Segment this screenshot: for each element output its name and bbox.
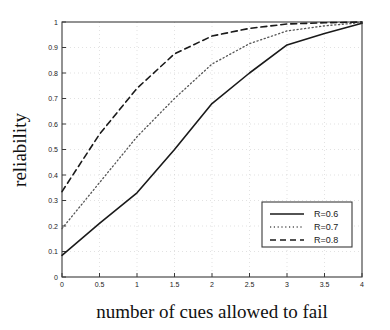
x-tick-label: 1.5 [170,281,180,288]
x-tick-label: 2.5 [245,281,255,288]
y-tick-label: 0.5 [48,146,58,153]
chart-background [0,0,390,330]
legend-label: R=0.6 [314,209,338,219]
x-axis-title: number of cues allowed to fail [96,301,328,322]
x-tick-label: 0.5 [95,281,105,288]
y-tick-label: 0.7 [48,95,58,102]
y-tick-label: 0.9 [48,44,58,51]
x-tick-label: 1 [135,281,139,288]
y-axis-title: reliability [9,113,30,187]
reliability-line-chart: 00.511.522.533.54 00.10.20.30.40.50.60.7… [0,0,390,330]
y-tick-label: 0.8 [48,70,58,77]
y-tick-label: 0.2 [48,223,58,230]
legend-label: R=0.7 [314,222,338,232]
chart-figure: 00.511.522.533.54 00.10.20.30.40.50.60.7… [0,0,390,330]
y-tick-label: 0 [54,274,58,281]
y-tick-label: 0.1 [48,248,58,255]
y-tick-label: 0.6 [48,121,58,128]
chart-legend: R=0.6R=0.7R=0.8 [262,202,352,247]
x-tick-label: 4 [360,281,364,288]
x-tick-label: 3 [285,281,289,288]
x-tick-label: 3.5 [320,281,330,288]
y-tick-label: 0.3 [48,197,58,204]
legend-label: R=0.8 [314,235,338,245]
x-tick-label: 2 [210,281,214,288]
y-tick-label: 0.4 [48,172,58,179]
x-tick-label: 0 [60,281,64,288]
y-tick-label: 1 [54,19,58,26]
